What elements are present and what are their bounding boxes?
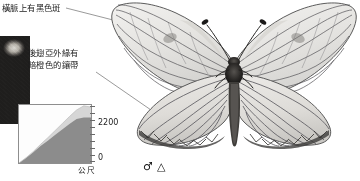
axis-tick [90, 161, 95, 162]
chart-area-lower [19, 117, 91, 163]
axis-tick [90, 113, 95, 114]
annotation-orange-band-line2: 暗橙色的鑲帶 [28, 59, 78, 71]
elevation-distribution-chart [18, 104, 92, 164]
axis-tick [90, 106, 95, 107]
butterfly-wings [112, 3, 357, 149]
chart-ytick-label-0: 0 [98, 153, 103, 162]
axis-tick [90, 134, 95, 135]
antenna-club-left [201, 18, 209, 26]
annotation-orange-band: 後翅亞外緣有 暗橙色的鑲帶 [28, 47, 78, 71]
antenna-club-right [259, 18, 267, 26]
annotation-orange-band-line1: 後翅亞外緣有 [28, 47, 78, 59]
hindwing-left [137, 74, 233, 149]
chart-unit-label: 公尺 [78, 164, 95, 175]
axis-tick [90, 120, 95, 121]
chart-plot-area [19, 105, 91, 163]
chart-y-axis-ticks [90, 104, 96, 162]
hindwing-right [235, 74, 331, 149]
figure-page: 橫脈上有黑色斑 後翅亞外緣有 暗橙色的鑲帶 2200 0 公尺 [0, 0, 360, 181]
male-sex-symbol: ♂ [143, 160, 157, 173]
annotation-vein-spot-text: 橫脈上有黑色斑 [2, 3, 61, 13]
axis-tick [90, 148, 95, 149]
axis-tick [90, 127, 95, 128]
specimen-symbols: ♂△ [143, 160, 169, 173]
triangle-symbol: △ [157, 160, 169, 173]
axis-tick [90, 141, 95, 142]
axis-tick [90, 155, 95, 156]
butterfly-specimen-image [108, 0, 360, 166]
annotation-vein-spot: 橫脈上有黑色斑 [2, 2, 61, 14]
